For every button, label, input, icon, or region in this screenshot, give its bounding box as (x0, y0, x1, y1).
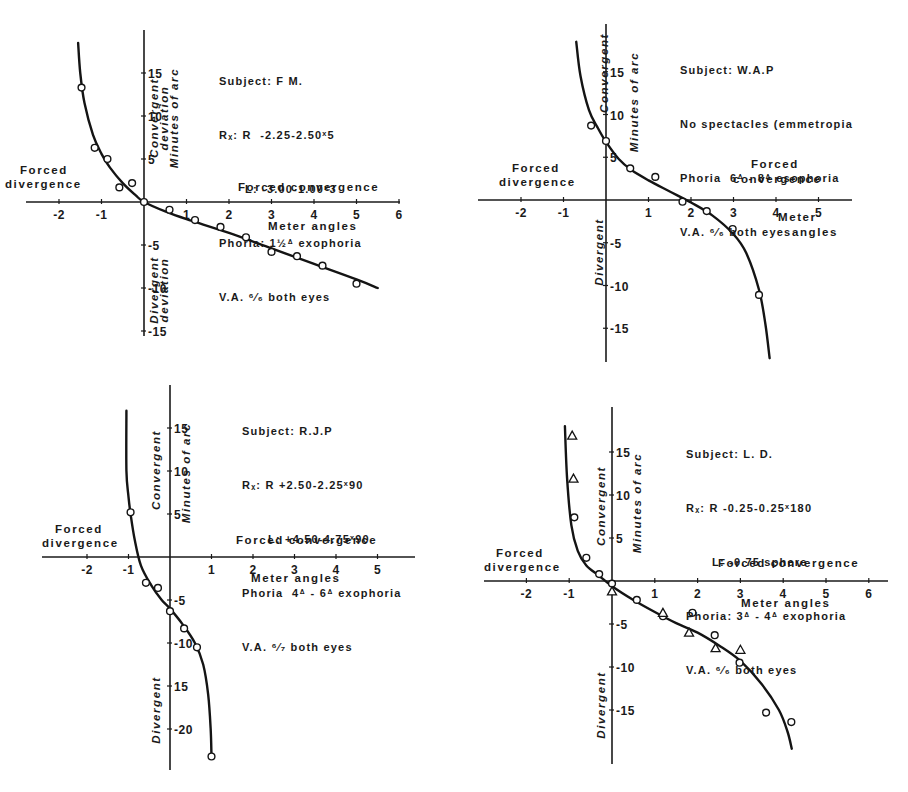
y-tick-label: -5 (616, 618, 628, 632)
y-tick-label: -15 (616, 704, 635, 718)
y-tick-label: -10 (616, 661, 635, 675)
data-point-triangle (658, 608, 667, 616)
x-tick-label: 1 (645, 206, 652, 220)
subject-label: Subject: W.A.P (680, 61, 853, 79)
x-tick-label: -2 (521, 587, 533, 601)
data-point-circle (155, 585, 162, 592)
data-point-circle (788, 719, 795, 726)
x-tick-label: 6 (395, 208, 402, 222)
subject-label: Subject: R.J.P (242, 422, 402, 440)
rx-right: Rₓ: R -0.25-0.25ˣ180 (686, 499, 846, 517)
x-tick-label: -1 (96, 208, 108, 222)
x-tick-label: -1 (563, 587, 575, 601)
data-point-circle (141, 199, 148, 206)
x-tick-label: -2 (81, 563, 93, 577)
rx-right: No spectacles (emmetropia (680, 115, 853, 133)
data-point-circle (127, 509, 134, 516)
fitted-curve (126, 411, 211, 757)
y-axis-units-label: Minutes of arc (631, 453, 643, 553)
forced-divergence-label: divergence (5, 178, 82, 190)
y-tick-label: 5 (616, 532, 623, 546)
divergent-deviation-label: deviation (158, 258, 170, 323)
forced-divergence-label: divergence (42, 537, 119, 549)
data-point-circle (571, 514, 578, 521)
data-point-circle (116, 184, 123, 191)
data-point-circle (78, 84, 85, 91)
divergent-label: Divergent (593, 218, 605, 285)
convergent-label: Convergent (598, 33, 610, 113)
data-point-circle (756, 292, 763, 299)
data-point-circle (194, 644, 201, 651)
data-point-circle (588, 122, 595, 129)
y-tick-label: -20 (174, 723, 193, 737)
phoria-label: Phoria: 3ᐞ - 4ᐞ exophoria (686, 607, 846, 625)
rx-left: L: -3.00-1.00ˣ3 (219, 180, 362, 198)
x-tick-label: -1 (123, 563, 135, 577)
data-point-circle (129, 180, 136, 187)
data-point-circle (633, 597, 640, 604)
data-point-circle (166, 206, 173, 213)
y-tick-label: -5 (174, 594, 186, 608)
y-tick-label: 10 (616, 489, 630, 503)
visual-acuity-label: V.A. ⁶⁄₆ both eyes (680, 223, 853, 241)
phoria-label: Phoria: 1½ᐞ exophoria (219, 234, 362, 252)
convergent-label: Convergent (595, 466, 607, 546)
visual-acuity-label: V.A. ⁶⁄₆ both eyes (219, 288, 362, 306)
panel-3-legend: Subject: R.J.P Rₓ: R +2.50-2.25ˣ90 L: +4… (242, 386, 402, 674)
rx-right: Rₓ: R -2.25-2.50ˣ5 (219, 126, 362, 144)
forced-divergence-label: Forced (55, 523, 103, 535)
data-point-circle (104, 156, 111, 163)
y-axis-units-label: Minutes of arc (168, 68, 180, 168)
data-point-circle (181, 625, 188, 632)
convergent-label: Convergent (150, 430, 162, 510)
forced-divergence-label: Forced (20, 164, 68, 176)
x-tick-label: -2 (53, 208, 65, 222)
divergent-label: Divergent (595, 671, 607, 738)
rx-right: Rₓ: R +2.50-2.25ˣ90 (242, 476, 402, 494)
y-tick-label: -10 (174, 637, 193, 651)
x-tick-label: -1 (558, 206, 570, 220)
data-point-circle (143, 579, 150, 586)
y-tick-label: -15 (148, 325, 167, 339)
forced-divergence-label: Forced (496, 547, 544, 559)
rx-left: L: +4.50-4.75ˣ90 (242, 530, 402, 548)
data-point-circle (167, 608, 174, 615)
y-tick-label: -15 (610, 322, 629, 336)
data-point-triangle (568, 431, 577, 439)
divergent-label: Divergent (150, 676, 162, 743)
y-axis-units-label: Minutes of arc (628, 52, 640, 152)
data-point-circle (652, 174, 659, 181)
data-point-circle (596, 571, 603, 578)
x-tick-label: 1 (651, 587, 658, 601)
data-point-circle (763, 709, 770, 716)
data-point-circle (208, 753, 215, 760)
data-point-triangle (569, 474, 578, 482)
forced-divergence-label: divergence (484, 561, 561, 573)
data-point-circle (91, 144, 98, 151)
x-tick-label: 1 (208, 563, 215, 577)
y-tick-label: -5 (148, 239, 160, 253)
subject-label: Subject: F M. (219, 72, 362, 90)
y-tick-label: 15 (174, 680, 188, 694)
panel-4-legend: Subject: L. D. Rₓ: R -0.25-0.25ˣ180 L: -… (686, 409, 846, 697)
phoria-label: Phoria 6ᐞ - 8ᐞ esophoria (680, 169, 853, 187)
y-tick-label: -5 (610, 237, 622, 251)
visual-acuity-label: V.A. ⁶⁄₇ both eyes (242, 638, 402, 656)
phoria-label: Phoria 4ᐞ - 6ᐞ exophoria (242, 584, 402, 602)
forced-divergence-label: divergence (499, 176, 576, 188)
y-tick-label: 10 (610, 109, 624, 123)
data-point-circle (192, 217, 199, 224)
y-tick-label: 15 (610, 66, 624, 80)
y-tick-label: 15 (616, 446, 630, 460)
y-axis-units-label: Minutes of arc (180, 423, 192, 523)
x-tick-label: -2 (515, 206, 527, 220)
x-tick-label: 6 (865, 587, 872, 601)
y-tick-label: -10 (610, 280, 629, 294)
panel-1-legend: Subject: F M. Rₓ: R -2.25-2.50ˣ5 L: -3.0… (219, 36, 362, 324)
data-point-circle (627, 165, 634, 172)
data-point-circle (583, 554, 590, 561)
subject-label: Subject: L. D. (686, 445, 846, 463)
visual-acuity-label: V.A. ⁶⁄₆ both eyes (686, 661, 846, 679)
forced-divergence-label: Forced (512, 162, 560, 174)
panel-2-legend: Subject: W.A.P No spectacles (emmetropia… (680, 25, 853, 259)
